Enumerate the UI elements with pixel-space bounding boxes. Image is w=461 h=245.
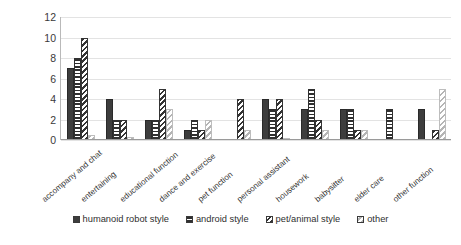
bar[interactable] [152,120,159,141]
y-tick-label: 6 [22,74,56,84]
x-axis-line [61,139,451,140]
bar-groups [61,17,451,140]
legend-item[interactable]: humanoid robot style [73,214,169,224]
x-tick-label: elder care [352,174,386,204]
bar[interactable] [269,109,276,140]
bar-group [256,17,295,140]
bar-group [100,17,139,140]
x-tick-label: babysitter [313,174,346,204]
bar[interactable] [308,89,315,140]
bar[interactable] [113,120,120,141]
plot-wrapper: 024681012 [0,0,461,150]
y-tick-label: 10 [22,33,56,43]
legend-swatch-icon [186,216,193,223]
x-tick-label: entertaining [79,170,118,204]
bar[interactable] [145,120,152,141]
bar[interactable] [159,89,166,140]
legend-swatch-icon [357,216,364,223]
legend-item[interactable]: other [357,214,388,224]
legend-label: humanoid robot style [83,214,169,224]
legend-item[interactable]: android style [186,214,249,224]
bar[interactable] [191,120,198,141]
gridline [61,140,451,141]
legend-label: pet/animal style [276,214,341,224]
bar[interactable] [418,109,425,140]
bar[interactable] [439,89,446,140]
y-tick-label: 2 [22,115,56,125]
legend-swatch-icon [73,216,80,223]
bar[interactable] [340,109,347,140]
bar[interactable] [106,99,113,140]
bar[interactable] [386,109,393,140]
legend-label: other [367,214,388,224]
y-tick-label: 0 [22,135,56,145]
bar[interactable] [166,109,173,140]
plot-area [60,17,451,140]
bar-group [61,17,100,140]
bar[interactable] [262,99,269,140]
bar-group [295,17,334,140]
y-tick-label: 12 [22,12,56,22]
bar-group [373,17,412,140]
x-tick-label: pet function [196,170,234,204]
legend-swatch-icon [266,216,273,223]
bar[interactable] [237,99,244,140]
bar[interactable] [301,109,308,140]
legend-label: android style [196,214,249,224]
bar[interactable] [276,99,283,140]
bar[interactable] [347,109,354,140]
y-tick-label: 8 [22,53,56,63]
bar[interactable] [120,120,127,141]
y-tick-label: 4 [22,94,56,104]
y-axis: 024681012 [22,10,56,143]
bar-group [178,17,217,140]
bar[interactable] [81,38,88,141]
x-tick-label: other function [391,165,435,204]
bar[interactable] [67,68,74,140]
x-axis-category-labels: accompany and chatentertainingeducationa… [60,142,450,204]
bar[interactable] [205,120,212,141]
bar-group [412,17,451,140]
x-tick-label: housework [274,172,310,204]
bar-group [217,17,256,140]
bar[interactable] [315,120,322,141]
bar-group [334,17,373,140]
bar-chart: 024681012 accompany and chatentertaining… [0,0,461,245]
bar-group [139,17,178,140]
chart-legend: humanoid robot styleandroid stylepet/ani… [0,214,461,224]
bar[interactable] [74,58,81,140]
legend-item[interactable]: pet/animal style [266,214,341,224]
